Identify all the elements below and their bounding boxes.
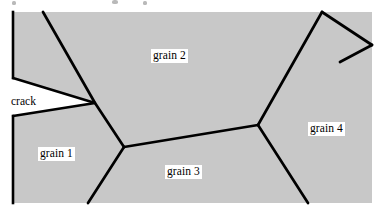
crack-label: crack (11, 95, 36, 108)
grain-1-label: grain 1 (38, 147, 75, 161)
scan-artifact-speck (112, 0, 118, 4)
grain-2-label: grain 2 (151, 49, 188, 63)
grain-structure-figure: grain 1 grain 2 grain 3 grain 4 crack (0, 0, 378, 217)
grain-diagram-canvas (0, 0, 378, 217)
scan-artifact-speck (143, 1, 147, 5)
scan-artifact-speck (12, 1, 16, 5)
grain-3-label: grain 3 (165, 165, 202, 179)
grain-4-label: grain 4 (308, 122, 345, 136)
